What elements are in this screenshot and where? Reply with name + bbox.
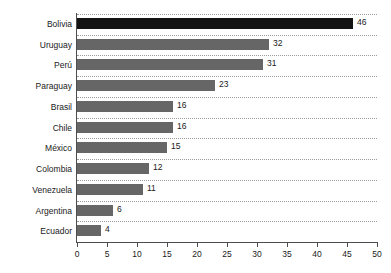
x-axis-tick	[347, 243, 348, 247]
category-label: Perú	[0, 55, 72, 76]
bar-row: 6	[77, 201, 377, 222]
bar-value-label: 23	[219, 78, 228, 91]
bar	[77, 225, 101, 236]
x-axis-tick	[287, 243, 288, 247]
bar-row: 16	[77, 118, 377, 139]
x-axis-tick-label: 20	[182, 249, 212, 260]
bar-row: 32	[77, 35, 377, 56]
x-axis-tick-label: 40	[302, 249, 332, 260]
bar	[77, 163, 149, 174]
x-axis-tick-label: 0	[62, 249, 92, 260]
category-axis-labels: BoliviaUruguayPerúParaguayBrasilChileMéx…	[0, 14, 72, 242]
category-label: Paraguay	[0, 76, 72, 97]
bar-row: 15	[77, 138, 377, 159]
category-label: Argentina	[0, 201, 72, 222]
x-axis-tick-label: 10	[122, 249, 152, 260]
x-axis-tick-label: 45	[332, 249, 362, 260]
category-label: Colombia	[0, 159, 72, 180]
bar	[77, 59, 263, 70]
bar-value-label: 12	[153, 161, 162, 174]
plot-area: 46323123161615121164	[77, 14, 377, 242]
bar-row: 46	[77, 14, 377, 35]
x-axis-tick	[107, 243, 108, 247]
x-axis-tick	[77, 243, 78, 247]
bar-value-label: 15	[171, 140, 180, 153]
x-axis-tick-label: 35	[272, 249, 302, 260]
x-axis-tick-label: 25	[212, 249, 242, 260]
category-label: México	[0, 138, 72, 159]
bar	[77, 18, 353, 29]
x-axis-tick	[227, 243, 228, 247]
bar-value-label: 11	[147, 182, 156, 195]
bar-row: 23	[77, 76, 377, 97]
bar-value-label: 16	[177, 99, 186, 112]
bar-value-label: 6	[117, 203, 122, 216]
bar-value-label: 31	[267, 57, 276, 70]
bar	[77, 205, 113, 216]
bar-value-label: 32	[273, 37, 282, 50]
bar-value-label: 4	[105, 223, 110, 236]
bar	[77, 142, 167, 153]
bar	[77, 184, 143, 195]
x-axis-tick-label: 5	[92, 249, 122, 260]
category-label: Uruguay	[0, 35, 72, 56]
x-axis-tick-label: 50	[362, 249, 391, 260]
bar-row: 31	[77, 55, 377, 76]
bar-row: 11	[77, 180, 377, 201]
x-axis-tick	[317, 243, 318, 247]
category-label: Venezuela	[0, 180, 72, 201]
bar-row: 16	[77, 97, 377, 118]
bar	[77, 80, 215, 91]
x-axis-tick-label: 15	[152, 249, 182, 260]
bar-chart: BoliviaUruguayPerúParaguayBrasilChileMéx…	[0, 0, 391, 273]
x-axis-tick	[197, 243, 198, 247]
bar	[77, 101, 173, 112]
category-label: Chile	[0, 118, 72, 139]
category-label: Bolivia	[0, 14, 72, 35]
bar	[77, 39, 269, 50]
category-label: Ecuador	[0, 221, 72, 242]
x-axis-tick	[167, 243, 168, 247]
bar-value-label: 16	[177, 120, 186, 133]
x-axis-tick-label: 30	[242, 249, 272, 260]
x-axis-tick	[257, 243, 258, 247]
bar-value-label: 46	[357, 16, 366, 29]
bar	[77, 122, 173, 133]
category-label: Brasil	[0, 97, 72, 118]
bar-row: 12	[77, 159, 377, 180]
x-axis-tick	[137, 243, 138, 247]
x-axis-tick	[377, 243, 378, 247]
bar-row: 4	[77, 221, 377, 242]
